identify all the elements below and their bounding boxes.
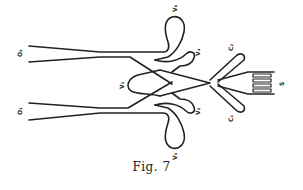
- label-o2: O₂: [16, 49, 23, 57]
- label-v1: V₁: [118, 81, 125, 89]
- label-v4: V₄: [194, 48, 201, 56]
- outlet-channel-o2: [29, 17, 184, 84]
- valve-v4-loop: [155, 52, 194, 72]
- label-v6: V₆: [171, 4, 178, 12]
- outlet-channel-o1: [29, 82, 184, 148]
- label-c1: C₁: [227, 115, 234, 122]
- label-c2: C₂: [227, 44, 234, 51]
- diagram-figure: O₂ O₁ V₆ V₄ V₁ V₂ V₅ C₂ C₁ S Fig. 7: [0, 0, 303, 190]
- label-s: S: [278, 82, 285, 86]
- label-v5: V₅: [171, 152, 178, 160]
- figure-caption: Fig. 7: [0, 160, 303, 174]
- label-v2: V₂: [194, 107, 201, 115]
- label-o1: O₁: [16, 107, 23, 115]
